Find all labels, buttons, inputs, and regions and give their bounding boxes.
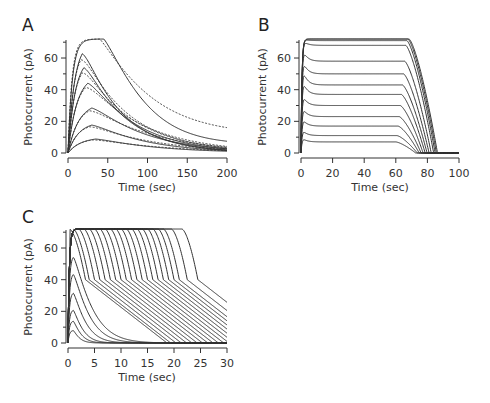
figure: A 0204060050100150200 Time (sec) Photocu…	[0, 0, 490, 403]
panel-a-x-label: Time (sec)	[117, 181, 176, 194]
panel-b-x-label: Time (sec)	[350, 181, 409, 194]
panel-b-y-label: Photocurrent (pA)	[256, 48, 269, 146]
fit-trace	[68, 39, 227, 153]
y-tick-label: 60	[277, 52, 291, 65]
fit-trace	[68, 88, 227, 153]
y-tick-label: 60	[44, 242, 58, 255]
x-tick-label: 0	[65, 357, 72, 370]
y-tick-label: 20	[277, 115, 291, 128]
panel-a-letter: A	[22, 15, 34, 35]
recorded-trace	[68, 39, 227, 153]
panel-b-curves	[301, 39, 459, 153]
fit-trace	[68, 60, 227, 153]
x-tick-label: 50	[101, 167, 115, 180]
y-tick-label: 0	[51, 147, 58, 160]
x-tick-label: 20	[326, 167, 340, 180]
panel-c-y-label: Photocurrent (pA)	[22, 238, 35, 336]
x-tick-label: 0	[298, 167, 305, 180]
x-tick-label: 80	[420, 167, 434, 180]
x-tick-label: 150	[177, 167, 198, 180]
x-tick-label: 0	[65, 167, 72, 180]
y-tick-label: 40	[44, 84, 58, 97]
panel-a: A 0204060050100150200 Time (sec) Photocu…	[22, 15, 238, 194]
panel-c: C 0204060051015202530 Time (sec) Photocu…	[22, 207, 234, 384]
trace	[68, 229, 227, 343]
x-tick-label: 100	[137, 167, 158, 180]
y-tick-label: 20	[44, 305, 58, 318]
panel-a-curves	[68, 39, 227, 153]
x-tick-label: 10	[114, 357, 128, 370]
y-tick-label: 0	[284, 147, 291, 160]
y-tick-label: 40	[277, 84, 291, 97]
x-tick-label: 30	[220, 357, 234, 370]
recorded-trace	[68, 68, 227, 153]
y-tick-label: 40	[44, 274, 58, 287]
panel-c-letter: C	[22, 207, 34, 227]
panel-c-x-label: Time (sec)	[117, 371, 176, 384]
panel-a-y-label: Photocurrent (pA)	[22, 48, 35, 146]
panel-b: B 0204060020406080100 Time (sec) Photocu…	[256, 15, 470, 194]
panel-c-curves	[68, 229, 227, 343]
y-tick-label: 20	[44, 115, 58, 128]
x-tick-label: 200	[217, 167, 238, 180]
x-tick-label: 25	[194, 357, 208, 370]
panel-a-axes: 0204060050100150200	[44, 40, 238, 180]
x-tick-label: 100	[449, 167, 470, 180]
trace	[301, 43, 459, 153]
x-tick-label: 40	[357, 167, 371, 180]
recorded-trace	[68, 125, 227, 153]
x-tick-label: 60	[389, 167, 403, 180]
y-tick-label: 0	[51, 337, 58, 350]
x-tick-label: 20	[167, 357, 181, 370]
recorded-trace	[68, 54, 227, 153]
x-tick-label: 15	[141, 357, 155, 370]
panel-b-letter: B	[258, 15, 270, 35]
y-tick-label: 60	[44, 52, 58, 65]
x-tick-label: 5	[91, 357, 98, 370]
